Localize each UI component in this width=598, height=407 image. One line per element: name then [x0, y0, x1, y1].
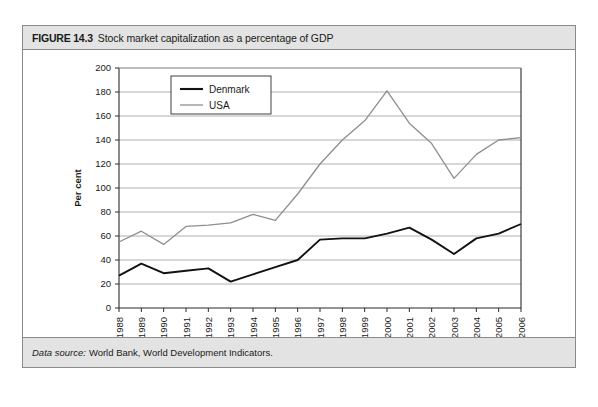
x-axis-tick-label: 1997	[315, 317, 326, 337]
figure-source-bar: Data source: World Bank, World Developme…	[23, 337, 575, 367]
x-axis-tick-label: 2006	[516, 317, 527, 337]
y-axis-tick-label: 140	[95, 134, 111, 145]
legend-label-denmark: Denmark	[209, 84, 251, 95]
source-label: Data source:	[32, 347, 86, 358]
y-axis-tick-label: 80	[100, 206, 111, 217]
x-axis-tick-label: 1991	[181, 317, 192, 337]
x-axis-tick-label: 2001	[404, 317, 415, 337]
x-axis-tick-label: 1995	[270, 317, 281, 337]
y-axis-tick-label: 60	[100, 230, 111, 241]
x-axis-tick-label: 2004	[471, 317, 482, 337]
x-axis-tick-label: 2002	[426, 317, 437, 337]
y-axis-title: Per cent	[72, 168, 83, 206]
line-chart: 0204060801001201401601802001988198919901…	[23, 50, 575, 337]
source-text: World Bank, World Development Indicators…	[89, 347, 273, 358]
x-axis-tick-label: 2005	[493, 317, 504, 337]
x-axis-tick-label: 1989	[136, 317, 147, 337]
series-line-denmark	[119, 224, 521, 282]
x-axis-tick-label: 2003	[449, 317, 460, 337]
y-axis-tick-label: 40	[100, 254, 111, 265]
figure-container: FIGURE 14.3 Stock market capitalization …	[22, 25, 576, 368]
x-axis-tick-label: 1996	[292, 317, 303, 337]
x-axis-tick-label: 2000	[382, 317, 393, 337]
x-axis-tick-label: 1992	[203, 317, 214, 337]
figure-caption: Stock market capitalization as a percent…	[98, 32, 333, 44]
x-axis-tick-label: 1993	[225, 317, 236, 337]
y-axis-tick-label: 20	[100, 278, 111, 289]
figure-number: FIGURE 14.3	[32, 32, 93, 44]
x-axis-tick-label: 1999	[359, 317, 370, 337]
x-axis-tick-label: 1994	[248, 317, 259, 337]
y-axis-tick-label: 160	[95, 110, 111, 121]
y-axis-tick-label: 0	[106, 302, 111, 313]
chart-plot-region: 0204060801001201401601802001988198919901…	[23, 50, 575, 337]
x-axis-tick-label: 1998	[337, 317, 348, 337]
y-axis-tick-label: 180	[95, 86, 111, 97]
figure-title-bar: FIGURE 14.3 Stock market capitalization …	[23, 26, 575, 50]
x-axis-tick-label: 1988	[114, 317, 125, 337]
y-axis-tick-label: 200	[95, 62, 111, 73]
x-axis-tick-label: 1990	[158, 317, 169, 337]
legend-label-usa: USA	[209, 100, 230, 111]
y-axis-tick-label: 120	[95, 158, 111, 169]
y-axis-tick-label: 100	[95, 182, 111, 193]
